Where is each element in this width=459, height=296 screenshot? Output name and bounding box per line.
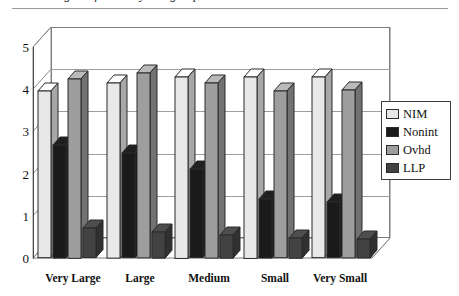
legend-item-nim: NIM <box>386 105 446 123</box>
x-label-very-small: Very Small <box>298 272 382 284</box>
y-tick-4: 4 <box>7 83 29 96</box>
x-label-large: Large <box>105 272 175 284</box>
gridline-2 <box>51 154 390 155</box>
x-label-very-large: Very Large <box>34 272 112 284</box>
legend-swatch-ovhd <box>386 145 399 155</box>
legend-label-ovhd: Ovhd <box>403 144 431 157</box>
legend-swatch-nim <box>386 109 399 119</box>
chart-legend: NIM Nonint Ovhd LLP <box>381 101 451 180</box>
gridline-1 <box>51 196 390 197</box>
y-axis-line <box>33 47 34 259</box>
y-tick-1: 1 <box>7 210 29 223</box>
chart-figure: rgins of banks by size groups <box>0 0 459 296</box>
legend-item-nonint: Nonint <box>386 123 446 141</box>
legend-item-ovhd: Ovhd <box>386 141 446 159</box>
gridline-3 <box>51 111 390 112</box>
legend-label-llp: LLP <box>403 162 425 175</box>
legend-item-llp: LLP <box>386 159 446 177</box>
y-tick-5: 5 <box>7 41 29 54</box>
legend-swatch-nonint <box>386 127 399 137</box>
y-tick-0: 0 <box>7 252 29 265</box>
y-axis-labels: 5 4 3 2 1 0 <box>0 0 29 296</box>
legend-swatch-llp <box>386 163 399 173</box>
legend-label-nim: NIM <box>403 108 427 121</box>
gridline-4 <box>51 69 390 70</box>
x-label-medium: Medium <box>170 272 248 284</box>
back-wall <box>51 27 390 238</box>
y-tick-3: 3 <box>7 125 29 138</box>
legend-label-nonint: Nonint <box>403 126 438 139</box>
y-tick-2: 2 <box>7 168 29 181</box>
